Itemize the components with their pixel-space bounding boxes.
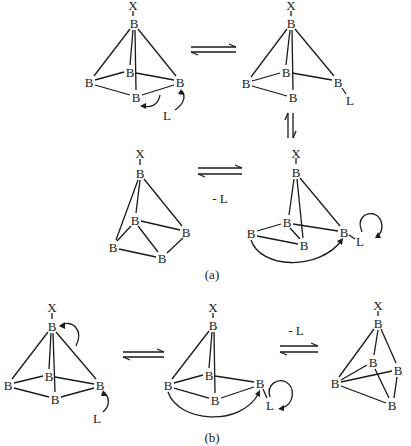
- atom-b: B: [132, 90, 141, 105]
- atom-x: X: [286, 0, 296, 13]
- structure-3: X B B B B B: [109, 146, 191, 266]
- atom-b: B: [300, 238, 309, 253]
- atom-b: B: [131, 213, 140, 228]
- reagent-label-minus-l: - L: [212, 191, 228, 206]
- atom-b: B: [331, 376, 340, 391]
- atom-b: B: [126, 65, 135, 80]
- structure-4: X B B B B B L: [247, 146, 382, 263]
- panel-label-a: (a): [205, 267, 219, 282]
- atom-b: B: [182, 225, 191, 240]
- atom-b: B: [369, 355, 378, 370]
- atom-b: B: [4, 378, 13, 393]
- scheme-svg: X B B B B B L X B B B B B L: [0, 0, 411, 446]
- atom-b: B: [164, 378, 173, 393]
- atom-x: X: [208, 300, 218, 315]
- atom-x: X: [128, 0, 138, 13]
- atom-b: B: [51, 392, 60, 407]
- panel-label-b: (b): [204, 430, 219, 445]
- atom-x: X: [373, 298, 383, 313]
- atom-b: B: [130, 16, 139, 31]
- atom-b: B: [176, 75, 185, 90]
- atom-b: B: [109, 240, 118, 255]
- structure-7: X B B B B B: [331, 298, 403, 413]
- atom-b: B: [242, 76, 251, 91]
- atom-b: B: [85, 75, 94, 90]
- atom-x: X: [291, 146, 301, 161]
- atom-b: B: [282, 65, 291, 80]
- atom-b: B: [388, 398, 397, 413]
- atom-l: L: [93, 411, 101, 426]
- atom-b: B: [45, 369, 54, 384]
- atom-b: B: [211, 393, 220, 408]
- atom-l: L: [356, 234, 364, 249]
- equilibrium-arrow-4: [280, 343, 318, 355]
- atom-b: B: [158, 251, 167, 266]
- equilibrium-arrow-2: [198, 165, 242, 177]
- atom-b: B: [292, 165, 301, 180]
- atom-b: B: [209, 318, 218, 333]
- atom-b: B: [205, 368, 214, 383]
- equilibrium-arrow-vertical: [285, 113, 296, 138]
- equilibrium-arrow-3: [123, 349, 164, 360]
- atom-b: B: [374, 316, 383, 331]
- atom-b: B: [136, 166, 145, 181]
- atom-l: L: [346, 93, 354, 108]
- atom-b: B: [247, 226, 256, 241]
- equilibrium-arrow-1: [191, 44, 236, 55]
- atom-b: B: [283, 215, 292, 230]
- atom-l: L: [163, 108, 171, 123]
- atom-l: L: [266, 398, 274, 413]
- atom-b: B: [394, 363, 403, 378]
- structure-5: X B B B B B L: [4, 300, 109, 426]
- atom-b: B: [289, 90, 298, 105]
- structure-2: X B B B B B L: [242, 0, 354, 108]
- structure-1: X B B B B B L: [85, 0, 185, 123]
- reagent-label-minus-l: - L: [288, 323, 304, 338]
- atom-b: B: [334, 75, 343, 90]
- structure-6: X B B B B B L: [164, 300, 293, 417]
- reaction-scheme: X B B B B B L X B B B B B L: [0, 0, 411, 446]
- atom-b: B: [340, 225, 349, 240]
- atom-b: B: [96, 378, 105, 393]
- atom-x: X: [135, 146, 145, 161]
- atom-x: X: [47, 300, 57, 315]
- atom-b: B: [256, 376, 265, 391]
- atom-b: B: [287, 16, 296, 31]
- atom-b: B: [48, 319, 57, 334]
